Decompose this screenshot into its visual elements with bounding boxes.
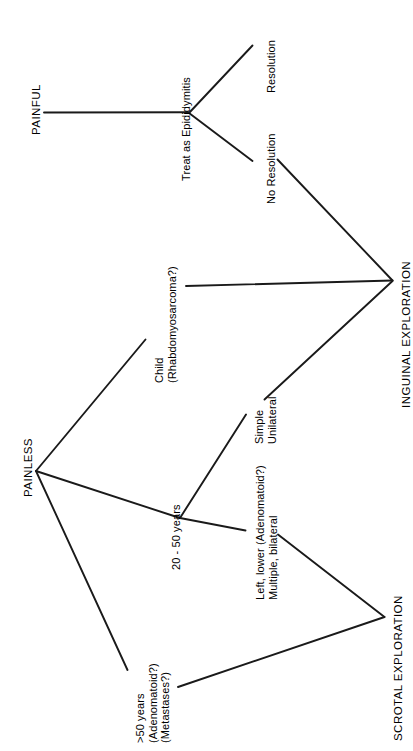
node-age-20-50: 20 - 50 years	[170, 504, 183, 570]
node-left-lower: Left, lower (Adenomatoid?) Multiple, bil…	[254, 465, 279, 600]
node-inguinal-exploration: INGUINAL EXPLORATION	[400, 261, 413, 408]
edge-treat-as-epididymitis-to-resolution	[189, 46, 253, 114]
node-scrotal-exploration: SCROTAL EXPLORATION	[392, 595, 405, 741]
node-child: Child (Rhabdomyosarcoma?)	[153, 266, 178, 383]
edge-painless-to-child	[36, 340, 146, 472]
node-resolution: Resolution	[265, 40, 278, 93]
node-simple-unilateral: Simple Unilateral	[253, 397, 278, 444]
edge-age-20-50-to-simple-unilateral	[180, 415, 246, 519]
edge-no-resolution-to-inguinal-exploration	[278, 160, 393, 281]
edge-left-lower-to-scrotal-exploration	[278, 535, 385, 618]
edge-over-50-to-scrotal-exploration	[178, 617, 385, 687]
edge-simple-unilateral-to-inguinal-exploration	[265, 281, 393, 400]
edge-treat-as-epididymitis-to-no-resolution	[189, 113, 253, 161]
node-painless: PAINLESS	[22, 438, 35, 497]
diagram-edges-layer	[0, 0, 413, 751]
node-over-50: >50 years (Adenomatoid?) (Metastases?)	[134, 663, 172, 743]
edge-painless-to-over-50	[36, 471, 128, 670]
node-treat-as-epididymitis: Treat as Epididymitis	[180, 77, 193, 181]
node-painful: PAINFUL	[30, 84, 43, 135]
edge-age-20-50-to-left-lower	[180, 518, 246, 531]
edge-painless-to-age-20-50	[36, 471, 180, 518]
node-no-resolution: No Resolution	[265, 134, 278, 204]
edge-child-to-inguinal-exploration	[186, 281, 393, 287]
decision-tree-diagram: PAINFUL Treat as Epididymitis Resolution…	[0, 0, 413, 751]
